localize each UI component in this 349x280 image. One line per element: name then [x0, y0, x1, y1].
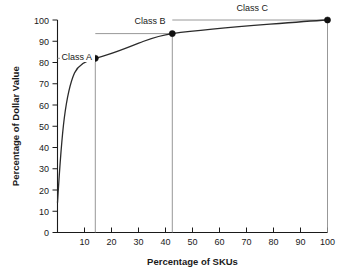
y-tick-label: 20 [39, 186, 49, 196]
x-tick-label: 100 [320, 237, 335, 247]
x-tick-label: 90 [295, 237, 305, 247]
data-point-class-c [324, 17, 330, 23]
y-tick-label: 10 [39, 207, 49, 217]
y-tick-marks [53, 20, 58, 233]
y-tick-label: 60 [39, 101, 49, 111]
data-point-class-b [169, 30, 175, 36]
class-a-label: Class A [62, 52, 93, 62]
y-tick-label: 0 [44, 228, 49, 238]
x-tick-label: 70 [241, 237, 251, 247]
y-tick-label: 70 [39, 79, 49, 89]
y-tick-label: 40 [39, 143, 49, 153]
x-axis-tick-labels: 10 20 30 40 50 60 70 80 90 100 [79, 237, 335, 247]
y-axis-title: Percentage of Dollar Value [10, 66, 21, 186]
class-annotation-labels: Class A Class B Class C [60, 2, 272, 62]
axes-group [58, 20, 328, 233]
y-tick-label: 100 [34, 16, 49, 26]
y-tick-label: 80 [39, 58, 49, 68]
x-tick-label: 30 [133, 237, 143, 247]
data-point-markers [92, 17, 330, 62]
abc-classification-chart: 0 10 20 30 40 50 60 70 80 90 100 10 20 3… [0, 0, 349, 280]
x-axis-title: Percentage of SKUs [147, 256, 238, 267]
x-tick-label: 50 [187, 237, 197, 247]
y-tick-label: 90 [39, 37, 49, 47]
class-b-label: Class B [135, 16, 166, 26]
class-c-label: Class C [237, 3, 269, 13]
axis-lines [58, 20, 328, 233]
cumulative-value-curve [58, 20, 328, 203]
y-tick-label: 50 [39, 122, 49, 132]
x-tick-label: 10 [79, 237, 89, 247]
x-tick-label: 40 [160, 237, 170, 247]
x-tick-label: 80 [268, 237, 278, 247]
class-guide-lines [58, 20, 328, 233]
y-tick-label: 30 [39, 164, 49, 174]
chart-canvas: 0 10 20 30 40 50 60 70 80 90 100 10 20 3… [0, 0, 349, 280]
x-tick-label: 20 [106, 237, 116, 247]
x-tick-marks [85, 228, 328, 233]
y-axis-tick-labels: 0 10 20 30 40 50 60 70 80 90 100 [34, 16, 49, 239]
x-tick-label: 60 [214, 237, 224, 247]
pareto-curve-group [58, 20, 328, 203]
